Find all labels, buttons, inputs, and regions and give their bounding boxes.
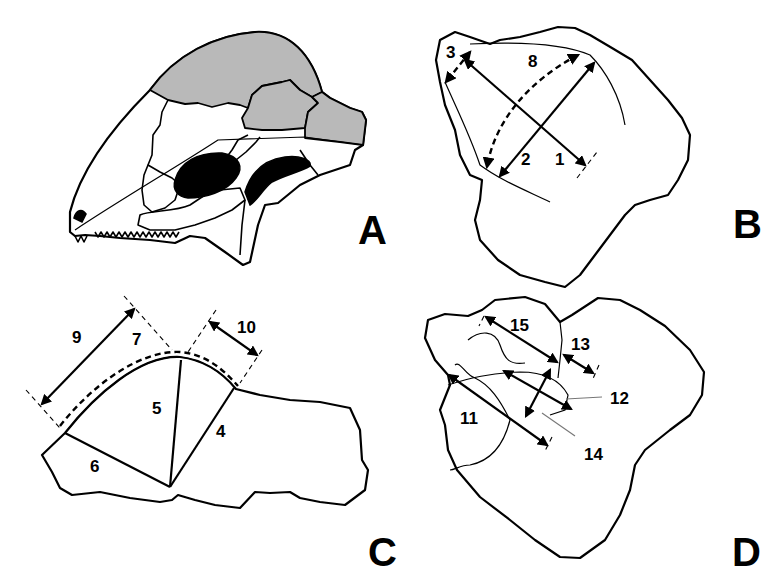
squamosal-shaded: [305, 92, 366, 145]
label-5: 5: [152, 399, 161, 418]
figure-canvas: A 3 8 2 1 B 9: [0, 0, 784, 582]
label-10: 10: [237, 318, 256, 337]
label-1: 1: [555, 150, 564, 169]
label-3: 3: [446, 43, 455, 62]
panel-label-b: B: [733, 202, 762, 246]
label-2: 2: [521, 150, 530, 169]
label-12: 12: [610, 389, 629, 408]
label-7: 7: [132, 330, 141, 349]
label-6: 6: [90, 457, 99, 476]
label-9: 9: [72, 328, 81, 347]
panel-label-d: D: [732, 530, 761, 574]
label-13: 13: [571, 335, 590, 354]
panel-d-fragment: 15 13 12 11 14 D: [425, 297, 761, 574]
measurement-10-guide-left: [188, 310, 216, 352]
label-14: 14: [584, 445, 603, 464]
panel-a-skull: A: [70, 32, 387, 265]
panel-b-fragment: 3 8 2 1 B: [436, 27, 762, 287]
label-15: 15: [510, 316, 529, 335]
label-11: 11: [460, 409, 478, 428]
panel-label-c: C: [368, 530, 397, 574]
label-8: 8: [528, 52, 537, 71]
measurement-9-guide-left: [26, 390, 60, 428]
panel-c-fragment: 9 7 10 5 4 6 C: [26, 296, 397, 574]
label-4: 4: [216, 422, 226, 441]
panel-label-a: A: [358, 208, 387, 252]
measurement-10-guide-right: [240, 350, 262, 383]
